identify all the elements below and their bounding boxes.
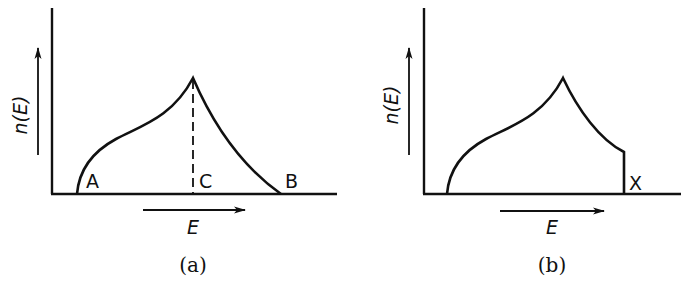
distribution-curve-a [77, 78, 281, 194]
panel-a: n(E) E A C B (a) [9, 8, 337, 277]
point-label-C: C [199, 170, 212, 192]
point-label-A: A [86, 170, 99, 192]
x-axis-label-a: E [187, 216, 199, 238]
panel-b: n(E) E X (b) [380, 8, 681, 277]
y-axis-label-a: n(E) [9, 96, 31, 135]
caption-b: (b) [538, 253, 566, 277]
point-label-X: X [629, 172, 642, 194]
figure-canvas: n(E) E A C B (a) n(E) E X (b) [0, 0, 681, 283]
x-axis-label-b: E [546, 216, 558, 238]
point-label-B: B [285, 170, 298, 192]
distribution-curve-b [447, 78, 624, 194]
y-axis-label-b: n(E) [380, 86, 402, 125]
caption-a: (a) [179, 253, 207, 277]
